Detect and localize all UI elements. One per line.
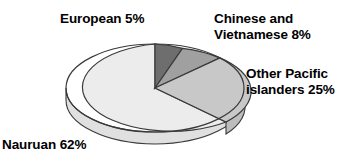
pie-chart-figure: European 5% Chinese and Vietnamese 8% Ot… xyxy=(0,0,351,167)
pie-label-chinese-vietnamese-line2: Vietnamese 8% xyxy=(214,27,311,43)
pie-label-nauruan: Nauruan 62% xyxy=(2,137,86,153)
pie-label-european-text: European 5% xyxy=(60,11,144,26)
pie-top-face xyxy=(66,44,251,132)
pie-label-other-pacific-islanders-line2: islanders 25% xyxy=(246,82,335,98)
pie-label-nauruan-text: Nauruan 62% xyxy=(2,137,86,152)
pie-label-chinese-vietnamese: Chinese and Vietnamese 8% xyxy=(214,11,311,42)
pie-label-other-pacific-islanders: Other Pacific islanders 25% xyxy=(246,66,335,97)
pie-label-chinese-vietnamese-line1: Chinese and xyxy=(214,11,311,27)
pie-label-european: European 5% xyxy=(60,11,144,27)
pie-label-other-pacific-islanders-line1: Other Pacific xyxy=(246,66,335,82)
